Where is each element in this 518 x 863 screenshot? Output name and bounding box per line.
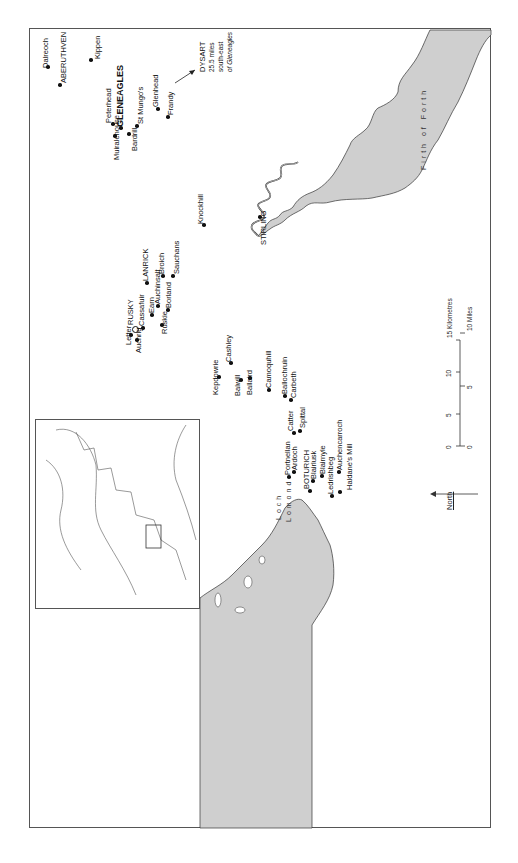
- inset-locator-map: [35, 419, 200, 609]
- place-marker: [292, 470, 296, 474]
- north-label: North: [445, 492, 454, 510]
- place-marker: [338, 490, 342, 494]
- km-tick-5: 5: [445, 413, 452, 417]
- place-label: Sauchans: [172, 241, 181, 274]
- place-label: Camoquhill: [264, 350, 273, 388]
- place-marker: [156, 304, 160, 308]
- place-marker: [156, 107, 160, 111]
- place-label: Auchencarroch: [335, 420, 344, 470]
- mi-tick-0: 0: [466, 445, 473, 449]
- dysart-distance: 25.5 miles: [208, 42, 215, 72]
- scale-bar: [456, 333, 465, 446]
- place-marker: [58, 83, 62, 87]
- place-marker: [311, 479, 315, 483]
- place-label: Auchrig: [134, 328, 143, 353]
- place-marker: [298, 429, 302, 433]
- dysart-direction: south-east: [217, 42, 224, 72]
- place-label: Cassafuir: [137, 294, 146, 326]
- scale-mi-label: 10 Miles: [466, 307, 473, 331]
- place-label: Ardoch: [290, 446, 299, 470]
- place-label: Ballochruin: [280, 357, 289, 394]
- place-marker: [292, 431, 296, 435]
- place-label: Ballaird: [245, 370, 254, 395]
- place-label: Knockhill: [196, 194, 205, 224]
- lomond-label: Lomond: [285, 479, 292, 522]
- place-marker: [308, 489, 312, 493]
- place-label: Frandy: [166, 92, 175, 115]
- place-label: Ruskie: [160, 311, 169, 334]
- place-marker: [150, 313, 154, 317]
- place-marker: [267, 388, 271, 392]
- place-marker: [337, 470, 341, 474]
- loch-lomond-water: [200, 499, 334, 828]
- place-label: Glenhead: [151, 74, 160, 107]
- place-label: Borland: [164, 282, 173, 308]
- firth-of-forth-label: Firth of Forth: [420, 88, 427, 170]
- dysart-title: DYSART: [198, 42, 207, 72]
- place-label: Letter: [124, 326, 133, 345]
- place-label: ABERUTHVEN: [59, 32, 68, 83]
- loch-label: Loch: [275, 493, 282, 520]
- north-arrow: [430, 491, 478, 497]
- dysart-reference: of Gleneagles: [226, 32, 233, 72]
- inset-focus-box: [146, 525, 161, 548]
- place-label: Balwill: [233, 375, 242, 396]
- place-label: Dalreoch: [41, 38, 50, 68]
- place-label: STIRLING: [259, 210, 268, 245]
- km-tick-0: 0: [445, 445, 452, 449]
- place-label: Bardrill: [130, 128, 139, 151]
- place-marker: [145, 281, 149, 285]
- place-marker: [171, 274, 175, 278]
- place-marker: [320, 474, 324, 478]
- place-label: Spittal: [298, 407, 307, 428]
- place-label: Kippen: [93, 36, 102, 59]
- place-label: LANRICK: [141, 248, 150, 281]
- place-label: Carbeth: [289, 371, 298, 398]
- place-label: RUSKY: [126, 299, 135, 325]
- firth-of-forth-water: [258, 30, 491, 236]
- place-label: Kepdowrie: [211, 360, 220, 395]
- mi-tick-5: 5: [466, 385, 473, 389]
- place-label: Ledrishbeg: [326, 457, 335, 494]
- place-marker: [283, 394, 287, 398]
- km-tick-10: 10: [445, 370, 452, 377]
- place-label: Catter: [286, 411, 295, 431]
- place-label: Haldane's Mill: [345, 444, 354, 490]
- place-label: St Mungo's: [136, 87, 145, 124]
- place-marker: [135, 124, 139, 128]
- place-marker: [330, 494, 334, 498]
- place-label: Cashley: [224, 335, 233, 362]
- scale-km-label: 15 Kilometres: [446, 298, 453, 338]
- place-marker: [166, 115, 170, 119]
- place-label: Earn: [147, 297, 156, 313]
- place-marker: [289, 398, 293, 402]
- place-label: Blairlusk: [309, 451, 318, 479]
- place-label: Muiralehouse: [112, 115, 121, 160]
